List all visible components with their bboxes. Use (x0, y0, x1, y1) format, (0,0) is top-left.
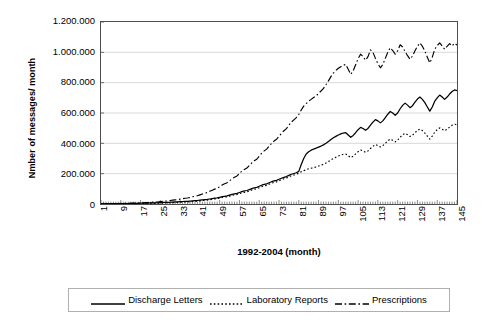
x-tick-label: 97 (335, 206, 345, 217)
y-axis-ticks (101, 22, 104, 204)
series-line-discharge-letters (101, 90, 457, 204)
x-tick-label: 113 (374, 206, 384, 221)
y-tick-label: 1.200.000 (33, 16, 95, 26)
legend-swatch-dotted (210, 295, 244, 305)
legend-label: Prescriptions (372, 295, 427, 305)
x-tick-label: 41 (195, 206, 205, 217)
x-tick-label: 65 (255, 206, 265, 217)
x-tick-label: 129 (414, 206, 424, 222)
gridlines (101, 52, 457, 173)
x-tick-label: 73 (275, 206, 285, 217)
legend-label: Discharge Letters (128, 295, 202, 305)
y-axis-tick-labels: 1.200.0001.000.000800.000600.000400.0002… (33, 0, 95, 330)
x-tick-label: 49 (215, 206, 225, 217)
y-tick-label: 800.000 (33, 77, 95, 87)
y-tick-label: 1.000.000 (33, 47, 95, 57)
legend-entry: Prescriptions (328, 295, 427, 305)
plot-area (100, 21, 458, 205)
legend-swatch-solid (91, 295, 125, 305)
x-tick-label: 25 (156, 206, 166, 217)
y-tick-label: 200.000 (33, 169, 95, 179)
x-tick-label: 89 (315, 206, 325, 217)
legend-entry: Laboratory Reports (203, 295, 328, 305)
x-tick-label: 145 (454, 206, 464, 222)
x-tick-label: 81 (295, 206, 305, 217)
x-tick-label: 17 (136, 206, 146, 217)
y-tick-label: 400.000 (33, 139, 95, 149)
series-line-laboratory-reports (101, 124, 457, 204)
y-tick-label: 0 (33, 200, 95, 210)
x-tick-label: 121 (394, 206, 404, 222)
legend-swatch-dashdot (335, 295, 369, 305)
y-tick-label: 600.000 (33, 108, 95, 118)
plot-svg (101, 22, 457, 204)
legend-entry: Discharge Letters (91, 295, 202, 305)
legend-label: Laboratory Reports (247, 295, 328, 305)
x-axis-tick-labels: 1917253341495765738189971051131211291371… (100, 206, 458, 246)
x-axis-title: 1992-2004 (month) (100, 246, 458, 257)
x-tick-label: 9 (116, 206, 126, 211)
x-tick-label: 105 (355, 206, 365, 222)
chart-figure: Nmber of messages/ month 1.200.0001.000.… (0, 0, 483, 330)
x-tick-label: 1 (96, 206, 106, 211)
x-tick-label: 33 (176, 206, 186, 217)
chart-legend: Discharge LettersLaboratory ReportsPresc… (68, 288, 450, 312)
x-tick-label: 137 (434, 206, 444, 222)
x-tick-label: 57 (235, 206, 245, 217)
